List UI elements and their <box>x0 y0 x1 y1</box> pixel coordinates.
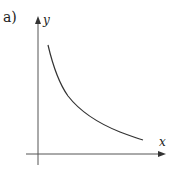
decreasing-curve <box>48 45 143 140</box>
y-axis-arrow-icon <box>35 16 41 24</box>
x-axis-label: x <box>159 136 166 148</box>
y-axis-label: y <box>43 14 50 26</box>
x-axis-arrow-icon <box>158 151 166 157</box>
diagram-canvas <box>0 0 174 173</box>
